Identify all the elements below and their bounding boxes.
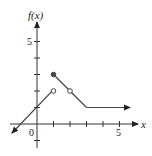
- x-tick-label-5: 5: [116, 127, 121, 138]
- y-axis-label: f(x): [28, 9, 44, 22]
- closed-point-1-3: [51, 72, 56, 77]
- open-point-2-2: [68, 89, 73, 94]
- x-axis-label: x: [140, 118, 146, 130]
- function-graph: f(x) x 0 5 5: [0, 0, 152, 156]
- open-point-1-2: [51, 89, 56, 94]
- y-tick-label-5: 5: [27, 36, 32, 47]
- origin-label: 0: [29, 127, 34, 138]
